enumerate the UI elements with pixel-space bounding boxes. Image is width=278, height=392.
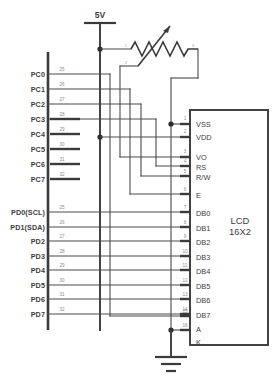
- lcd-pin-label-db4: DB4: [196, 267, 210, 276]
- pin-number-pc0: 25: [59, 67, 65, 72]
- port-label-pc2: PC2: [31, 100, 45, 109]
- supply-voltage-label: 5V: [95, 10, 106, 20]
- pin-number-pc1: 26: [59, 82, 65, 87]
- pot-terminal-2-label: 2: [125, 60, 128, 65]
- port-label-pd6: PD6: [31, 295, 45, 304]
- port-label-pd3: PD3: [31, 252, 45, 261]
- pin-number-pd7: 32: [59, 307, 65, 312]
- pin-number-pd6: 31: [59, 292, 65, 297]
- lcd-pin-number-1: 1: [184, 116, 187, 121]
- port-label-pc0: PC0: [31, 70, 45, 79]
- lcd-pin-label-db6: DB6: [196, 296, 210, 305]
- lcd-pin-label-e: E: [196, 191, 201, 200]
- lcd-pin-number-13: 13: [182, 292, 188, 297]
- lcd-pin-number-16: 16: [182, 323, 188, 328]
- lcd-title-line1: LCD: [231, 215, 250, 226]
- lcd-pin-number-10: 10: [182, 249, 188, 254]
- pin-number-pd4: 29: [59, 263, 65, 268]
- lcd-pin-labels: 1 VSS 2 VDD 3 VO 4 RS 5 R/W 6 E 7 DB0 8 …: [182, 116, 211, 347]
- lcd-pin-number-6: 6: [184, 187, 187, 192]
- lcd-pin-number-3: 3: [184, 149, 187, 154]
- pin-number-pc7: 32: [59, 172, 65, 177]
- lcd-pin-label-rw: R/W: [196, 173, 210, 182]
- lcd-pin-number-9: 9: [184, 234, 187, 239]
- lcd-pin-label-vo: VO: [196, 153, 207, 162]
- pin-number-pd2: 27: [59, 234, 65, 239]
- lcd-pin-label-rs: RS: [196, 163, 206, 172]
- pot-wiper-arrow-head: [163, 26, 170, 33]
- pin-number-pd1: 26: [59, 220, 65, 225]
- pot-terminal-3-label: 3: [192, 43, 195, 48]
- port-label-pd2: PD2: [31, 237, 45, 246]
- lcd-pin-label-k: K: [196, 338, 201, 347]
- pin-number-pd3: 28: [59, 249, 65, 254]
- lcd-pin-label-a: A: [196, 325, 201, 334]
- lcd-pin-label-db3: DB3: [196, 253, 210, 262]
- lcd-pin-number-2: 2: [184, 129, 187, 134]
- port-label-pc5: PC5: [31, 145, 45, 154]
- lcd-pin-number-8: 8: [184, 220, 187, 225]
- pin-number-pc4: 29: [59, 127, 65, 132]
- lcd-pin-number-4: 4: [184, 159, 187, 164]
- junction-vss: [168, 121, 173, 126]
- pin-number-pc5: 30: [59, 142, 65, 147]
- port-label-pc4: PC4: [31, 130, 45, 139]
- lcd-pin-number-7: 7: [184, 205, 187, 210]
- lcd-pin-number-5: 5: [184, 169, 187, 174]
- port-label-pd1: PD1(SDA): [10, 223, 45, 232]
- lcd-pin-label-db0: DB0: [196, 209, 210, 218]
- lcd-pin-number-11: 11: [183, 263, 188, 268]
- port-label-pd0: PD0(SCL): [11, 208, 45, 217]
- port-label-pd7: PD7: [31, 310, 45, 319]
- lcd-pin-stubs: [180, 124, 190, 330]
- port-d-labels: PD0(SCL) 25 PD1(SDA) 26 PD2 27 PD3 28 PD…: [10, 205, 65, 319]
- port-label-pc6: PC6: [31, 160, 45, 169]
- lcd-pin-label-db1: DB1: [196, 224, 210, 233]
- pin-number-pc3: 28: [59, 112, 65, 117]
- port-label-pc1: PC1: [31, 85, 45, 94]
- lcd-pin-number-15: 15: [182, 309, 188, 314]
- pot-terminal-1-label: 1: [125, 43, 128, 48]
- pin-number-pd5: 30: [59, 278, 65, 283]
- schematic-diagram: 1 3 2: [0, 0, 278, 392]
- pot-resistor-body: [131, 42, 198, 56]
- port-label-pc7: PC7: [31, 175, 45, 184]
- lcd-pin-label-db2: DB2: [196, 238, 210, 247]
- lcd-pin-label-db5: DB5: [196, 282, 210, 291]
- lcd-pin-label-vdd: VDD: [196, 133, 212, 142]
- pin-number-pc6: 31: [59, 157, 65, 162]
- lcd-pin-label-vss: VSS: [196, 120, 211, 129]
- lcd-pin-number-12: 12: [182, 278, 188, 283]
- port-label-pd5: PD5: [31, 281, 45, 290]
- pin-number-pc2: 27: [59, 97, 65, 102]
- lcd-title-line2: 16X2: [229, 226, 251, 237]
- lcd-pin-label-db7: DB7: [196, 311, 210, 320]
- schematic-canvas: 1 3 2: [0, 0, 278, 392]
- port-label-pd4: PD4: [31, 266, 45, 275]
- port-label-pc3: PC3: [31, 115, 45, 124]
- pin-number-pd0: 25: [59, 205, 65, 210]
